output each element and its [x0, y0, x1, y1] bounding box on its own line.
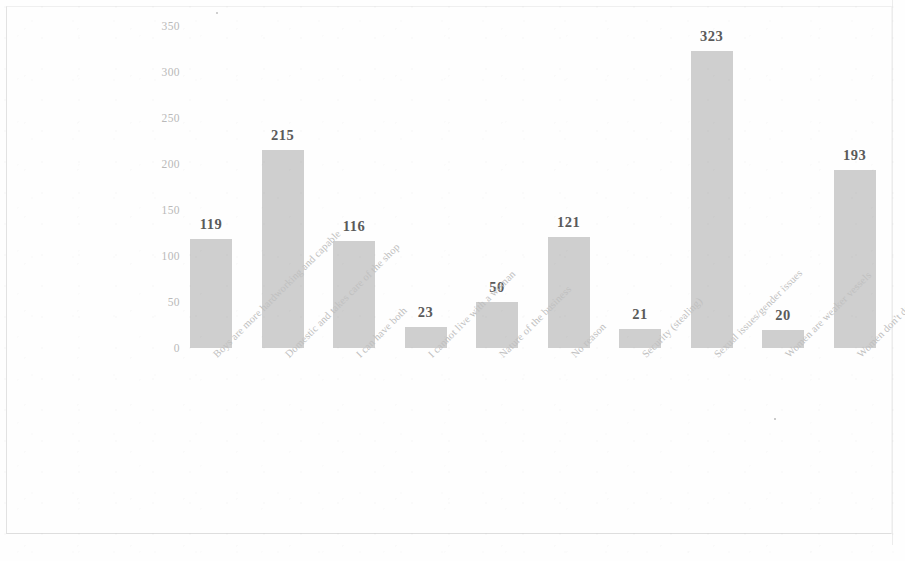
scanned-page: 350 300 250 200 150 100 50 0 11921511623… [0, 0, 905, 561]
x-axis-label: Women don't do nwa boys [855, 352, 863, 360]
bar-group: 323 [677, 26, 747, 348]
bar-group: 215 [248, 26, 318, 348]
x-axis-label: Women are weaker vessels [783, 352, 791, 360]
x-axis-label: No reason [569, 352, 577, 360]
bar-group: 21 [605, 26, 675, 348]
x-axis-label: Sexual issues/gender issues [712, 352, 720, 360]
bar-group: 23 [391, 26, 461, 348]
x-axis-label: Domestic and takes care of the shop [283, 352, 291, 360]
bar-value-label: 323 [677, 28, 747, 45]
bar-group: 20 [748, 26, 818, 348]
bar-group: 121 [534, 26, 604, 348]
scan-speck [774, 418, 776, 420]
bar-group: 119 [176, 26, 246, 348]
bar-group: 116 [319, 26, 389, 348]
bar-value-label: 119 [176, 216, 246, 233]
x-axis-label: I can have both [354, 352, 362, 360]
bar-value-label: 121 [534, 214, 604, 231]
x-axis-labels: Boys are more hardworking and capableDom… [162, 352, 902, 552]
x-axis-label: Security (stealing) [640, 352, 648, 360]
x-axis-label: Nature of the business [497, 352, 505, 360]
bar-value-label: 215 [248, 127, 318, 144]
bar-value-label: 21 [605, 306, 675, 323]
bar[interactable] [262, 150, 304, 348]
x-axis-label: Boys are more hardworking and capable [211, 352, 219, 360]
x-axis-label: I cannot live with a woman [426, 352, 434, 360]
bar-group: 193 [820, 26, 890, 348]
bar-group: 50 [462, 26, 532, 348]
bar[interactable] [190, 239, 232, 348]
bar-value-label: 193 [820, 147, 890, 164]
bar-chart: 350 300 250 200 150 100 50 0 11921511623… [0, 0, 905, 561]
scan-speck [216, 12, 218, 14]
bar[interactable] [834, 170, 876, 348]
